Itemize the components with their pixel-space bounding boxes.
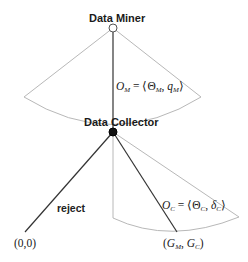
close-angle: ⟩ xyxy=(179,80,184,92)
data-miner-label: Data Miner xyxy=(89,13,145,24)
reject-label: reject xyxy=(57,203,85,214)
edge-collector-offer xyxy=(113,132,177,232)
edge-reject xyxy=(25,132,113,232)
miner-offer-label: OM = ⟨ΘM, qM⟩ xyxy=(116,81,184,94)
equals-open: = ⟨ xyxy=(175,199,192,211)
theta-symbol: Θ xyxy=(192,199,200,211)
data-collector-node xyxy=(109,128,117,136)
collector-offer-label: OC = ⟨ΘC, δC⟩ xyxy=(162,200,226,213)
g-symbol: G xyxy=(187,237,195,249)
leaf-reject-payoff: (0,0) xyxy=(14,238,36,250)
data-collector-label: Data Collector xyxy=(84,117,159,128)
theta-symbol: Θ xyxy=(147,80,155,92)
leaf-accept-payoff: (GM, GC) xyxy=(163,238,204,251)
game-tree-diagram xyxy=(0,0,248,262)
reject-payoff-text: (0,0) xyxy=(14,237,36,249)
close-paren: ) xyxy=(200,237,204,249)
close-angle: ⟩ xyxy=(221,199,226,211)
collector-strategy-fan xyxy=(113,132,239,231)
data-miner-node xyxy=(109,24,117,32)
equals-open: = ⟨ xyxy=(130,80,147,92)
g-symbol: G xyxy=(167,237,175,249)
